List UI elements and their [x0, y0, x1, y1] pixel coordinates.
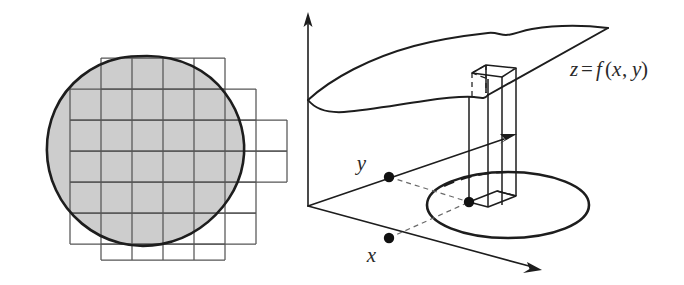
right-panel: y x z = f ( x , y )	[284, 0, 684, 285]
y-axis	[308, 139, 504, 206]
x-axis-arrowhead	[523, 262, 542, 273]
surface-label-open-paren: (	[605, 57, 612, 81]
surface-label-f: f	[596, 57, 605, 81]
x-axis-label: x	[366, 243, 377, 267]
surface-label-comma: ,	[622, 57, 627, 81]
surface-near-edge	[308, 95, 488, 112]
surface-label-close-paren: )	[641, 57, 648, 81]
surface-diagram-svg: y x z = f ( x , y )	[284, 0, 684, 285]
figure-root: y x z = f ( x , y )	[0, 0, 684, 285]
surface-label-equals: =	[581, 57, 593, 81]
surface-far-edge	[308, 26, 608, 100]
left-panel	[0, 0, 300, 285]
y-axis-label: y	[355, 151, 367, 175]
column-front-edge-2	[497, 191, 516, 196]
column-top-face	[472, 65, 516, 77]
x-sample-point	[384, 233, 394, 243]
surface-function-label: z = f ( x , y )	[569, 57, 648, 81]
surface-label-z: z	[569, 57, 578, 81]
x-axis	[308, 206, 529, 266]
grid-region-svg	[0, 0, 300, 285]
y-sample-point	[384, 172, 394, 182]
domain-sample-point	[464, 197, 474, 207]
surface-label-x: x	[611, 57, 622, 81]
x-projection-dash	[389, 202, 469, 238]
